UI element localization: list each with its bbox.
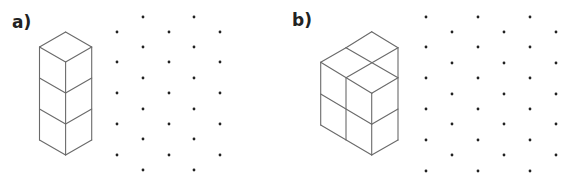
grid-dot [193,77,196,80]
cube-edge [66,32,92,47]
grid-dot [425,170,428,173]
cube-edge [40,140,66,155]
grid-dot [193,108,196,111]
part-a-isometric-dot-grid [116,16,222,172]
grid-dot [425,108,428,111]
grid-dot [529,77,532,80]
grid-dot [477,170,480,173]
grid-dot [219,123,222,126]
grid-dot [168,123,171,126]
cube-edge [40,109,66,124]
grid-dot [425,77,428,80]
grid-dot [529,170,532,173]
grid-dot [168,154,171,157]
cube-edge [66,78,92,93]
part-b-isometric-dot-grid [425,16,558,173]
grid-dot [529,16,532,19]
grid-dot [425,16,428,19]
cube-edge [321,48,346,63]
grid-dot [142,169,145,172]
grid-dot [168,31,171,34]
grid-dot [477,77,480,80]
isometric-worksheet: a) b) [0,0,577,186]
grid-dot [168,92,171,95]
grid-dot [477,108,480,111]
grid-dot [425,46,428,49]
grid-dot [219,154,222,157]
grid-dot [555,31,558,34]
cube-edge [66,140,92,155]
cube-edge [372,109,398,124]
grid-dot [142,138,145,141]
cube-edge [40,78,66,93]
grid-dot [142,77,145,80]
grid-dot [193,16,196,19]
grid-dot [529,139,532,142]
grid-dot [116,154,119,157]
grid-dot [219,31,222,34]
grid-dot [555,93,558,96]
grid-dot [219,92,222,95]
grid-dot [451,31,454,34]
grid-dot [451,93,454,96]
grid-dot [529,46,532,49]
grid-dot [555,154,558,157]
grid-dot [142,46,145,49]
cube-edge [372,32,398,48]
grid-dot [451,62,454,65]
grid-dot [116,61,119,64]
grid-dot [503,93,506,96]
cube-edge [372,78,398,94]
grid-dot [193,169,196,172]
grid-dot [477,16,480,19]
grid-dot [529,108,532,111]
grid-dot [142,16,145,19]
grid-dot [116,123,119,126]
grid-dot [555,123,558,126]
grid-dot [116,92,119,95]
part-b-cube-drawing [321,32,398,155]
grid-dot [193,46,196,49]
grid-dot [168,61,171,64]
grid-dot [193,138,196,141]
grid-dot [477,139,480,142]
grid-dot [451,123,454,126]
cube-edge [66,109,92,124]
grid-dot [477,46,480,49]
grid-dot [142,108,145,111]
grid-dot [219,61,222,64]
grid-dot [503,31,506,34]
grid-dot [116,31,119,34]
cube-edge [40,32,66,47]
cube-edge [346,32,372,48]
diagram-canvas [0,0,577,186]
grid-dot [503,62,506,65]
grid-dot [503,123,506,126]
grid-dot [503,154,506,157]
grid-dot [555,62,558,65]
cube-edge [372,140,398,155]
cube-edge [66,47,92,62]
part-a-cube-drawing [40,32,92,155]
grid-dot [425,139,428,142]
cube-edge [40,47,66,62]
grid-dot [451,154,454,157]
